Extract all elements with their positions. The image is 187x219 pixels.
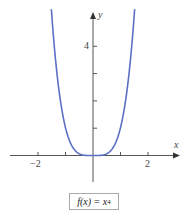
plot-area <box>0 0 187 219</box>
y-ticks <box>93 46 97 128</box>
function-caption: f(x) = x <box>77 196 107 207</box>
y-axis-label: y <box>98 10 102 20</box>
x-tick-label-2: 2 <box>145 159 150 169</box>
x-axis-label: x <box>174 140 178 150</box>
y-axis-arrow-icon <box>90 12 96 19</box>
function-caption-box: f(x) = x4 <box>69 193 119 210</box>
function-exponent: 4 <box>107 198 111 206</box>
x-tick-label-neg2: −2 <box>30 159 41 169</box>
y-tick-label-4: 4 <box>84 41 89 51</box>
x-axis-arrow-icon <box>173 153 180 159</box>
